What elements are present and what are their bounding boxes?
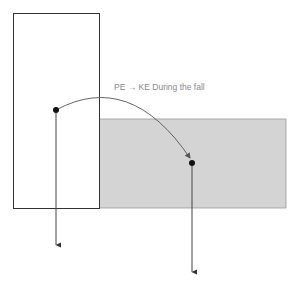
end-point	[189, 160, 195, 166]
start-point	[53, 107, 59, 113]
diagram-canvas	[0, 0, 296, 283]
energy-label: PE → KE During the fall	[114, 82, 205, 92]
